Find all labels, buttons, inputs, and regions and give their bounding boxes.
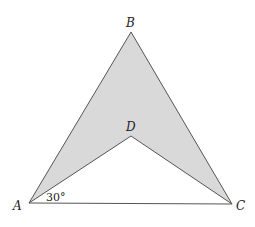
- angle-label-A: 30°: [46, 191, 66, 204]
- label-D: D: [125, 120, 136, 134]
- shaded-region-ABCD: [29, 32, 232, 204]
- label-B: B: [125, 16, 135, 30]
- label-C: C: [236, 199, 245, 213]
- geometry-figure: B D A C 30°: [0, 0, 255, 227]
- label-A: A: [12, 199, 22, 213]
